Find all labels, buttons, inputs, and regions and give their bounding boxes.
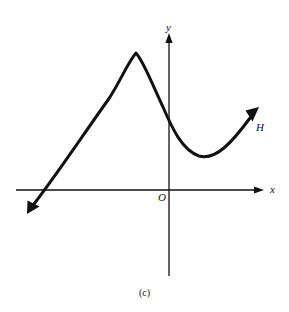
curve-h-path bbox=[34, 53, 250, 204]
x-axis-label: x bbox=[270, 184, 275, 195]
graph-canvas bbox=[0, 0, 289, 312]
figure-container: y x O H (c) bbox=[0, 0, 289, 312]
y-axis bbox=[165, 33, 172, 276]
y-axis-label: y bbox=[166, 22, 171, 33]
origin-label: O bbox=[158, 192, 166, 203]
y-axis-arrowhead-icon bbox=[165, 33, 172, 43]
curve-name-label: H bbox=[256, 122, 264, 133]
figure-caption: (c) bbox=[0, 288, 289, 298]
x-axis bbox=[16, 186, 264, 193]
x-axis-arrowhead-icon bbox=[254, 186, 264, 193]
